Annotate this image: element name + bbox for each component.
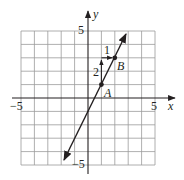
run-label: 1 — [104, 43, 110, 57]
x-min-label: −5 — [10, 99, 23, 113]
graph-line — [64, 34, 126, 160]
coordinate-plane: y 5 x 5 −5 −5 2 1 A B — [0, 0, 184, 180]
y-max-label: 5 — [78, 23, 84, 37]
rise-label: 2 — [93, 65, 99, 79]
y-min-label: −5 — [72, 157, 85, 171]
x-max-label: 5 — [151, 99, 157, 113]
y-axis-label: y — [92, 7, 99, 21]
point-b-label: B — [117, 59, 125, 73]
x-axis-label: x — [167, 99, 174, 113]
point-a-label: A — [103, 86, 112, 100]
